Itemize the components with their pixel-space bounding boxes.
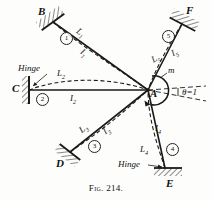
member-3-number: 3 [88, 140, 101, 153]
support-e-hatching [154, 168, 182, 176]
member-3-group [70, 90, 148, 152]
support-f [170, 9, 200, 31]
member-4-number: 4 [166, 143, 179, 156]
reference-line-horizontal [148, 86, 206, 90]
figure-caption: Fig. 214. [0, 183, 212, 193]
member-2-deflected-shape [29, 80, 148, 90]
member-1-number: 1 [60, 32, 73, 45]
figure-drawing [0, 0, 212, 200]
member-5-number: 5 [162, 30, 175, 43]
rotation-reference-lines [148, 86, 206, 101]
moment-leader-line [160, 73, 167, 78]
support-f-hatching [170, 9, 200, 31]
support-c-hatching [22, 76, 29, 104]
member-2-group [29, 80, 148, 90]
hinge-left-leader [33, 74, 47, 86]
member-3-axis [70, 90, 148, 152]
member-2-number: 2 [36, 93, 49, 106]
reference-line-rotated [148, 90, 206, 101]
hinge-bottom-leader [148, 165, 162, 167]
moment-arrow-head [145, 101, 151, 107]
joint-a-node [146, 88, 150, 92]
